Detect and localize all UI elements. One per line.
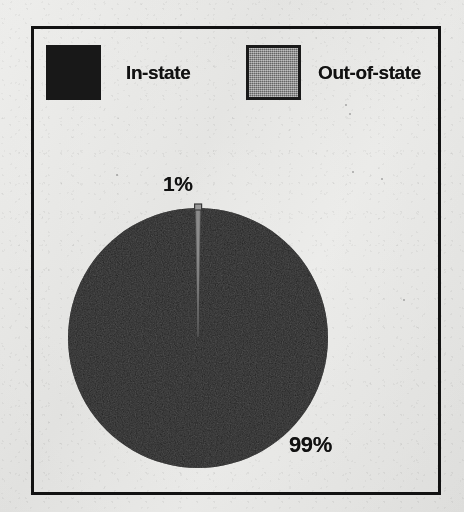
pie-data-label-in-state: 99% — [289, 432, 332, 458]
chart-screenshot: In-state Out-of-state — [0, 0, 464, 512]
pie-data-label-out-of-state: 1% — [163, 172, 193, 196]
pie-chart-svg — [0, 0, 464, 512]
pie-chart-area: 1% 99% — [0, 0, 464, 512]
